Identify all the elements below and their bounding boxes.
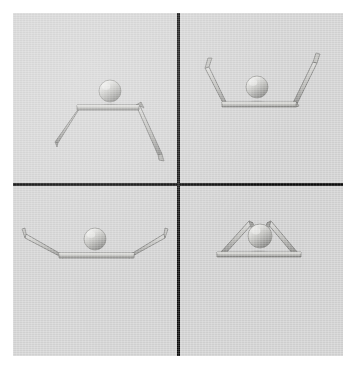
- right-arm: [136, 102, 164, 161]
- balance-beam: [59, 253, 134, 258]
- left-arm: [205, 58, 228, 106]
- left-arm: [55, 106, 81, 147]
- sphere: [99, 80, 121, 102]
- panel-bottom-left: [13, 186, 177, 356]
- right-arm: [129, 228, 168, 258]
- balance-beam: [77, 105, 139, 110]
- balance-beam: [222, 102, 296, 107]
- right-arm: [292, 53, 320, 107]
- panel-bottom-right: [179, 186, 343, 356]
- panel-top-left: [13, 13, 177, 183]
- balance-beam: [217, 252, 301, 257]
- sphere: [246, 76, 268, 98]
- panel-top-right: [179, 13, 343, 183]
- left-arm: [22, 228, 63, 258]
- sphere: [84, 228, 106, 250]
- simulation-panel-grid: [13, 13, 343, 356]
- sphere: [248, 224, 272, 248]
- figure-root: [0, 0, 357, 370]
